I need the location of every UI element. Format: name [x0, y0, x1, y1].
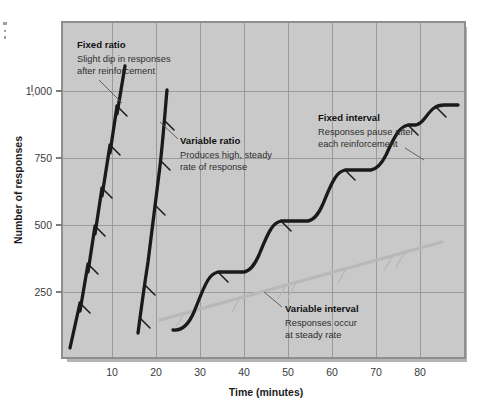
x-tick-label-70: 70	[370, 366, 382, 378]
annotation-variable-ratio-title: Variable ratio	[180, 135, 240, 146]
annotation-fixed-interval-title: Fixed interval	[318, 112, 380, 123]
x-tick-label-50: 50	[282, 366, 294, 378]
x-tick-label-20: 20	[150, 366, 162, 378]
chart-svg: 1,000 750 500 250 Number of responses 10…	[0, 0, 498, 410]
x-axis-title: Time (minutes)	[229, 386, 303, 398]
annotation-variable-interval-title: Variable interval	[285, 303, 359, 314]
annotation-fixed-ratio-title: Fixed ratio	[77, 39, 126, 50]
annotation-variable-ratio-line1: Produces high, steady	[180, 150, 272, 160]
annotation-variable-ratio-line2: rate of response	[180, 162, 247, 172]
x-tick-label-40: 40	[238, 366, 250, 378]
annotation-variable-interval-line1: Responses occur	[285, 318, 357, 328]
annotation-fixed-interval-line2: each reinforcement	[318, 139, 398, 149]
x-tick-label-10: 10	[106, 366, 118, 378]
y-tick-label-750: 750	[34, 152, 52, 164]
y-axis-title: Number of responses	[12, 136, 24, 244]
annotation-fixed-interval-line1: Responses pause after	[318, 127, 414, 137]
x-tick-label-60: 60	[326, 366, 338, 378]
annotation-fixed-ratio-line2: after reinforcement	[77, 66, 155, 76]
x-tick-label-30: 30	[194, 366, 206, 378]
y-tick-label-250: 250	[34, 286, 52, 298]
annotation-fixed-ratio-line1: Slight dip in responses	[77, 54, 171, 64]
y-tick-label-500: 500	[34, 219, 52, 231]
y-tick-label-1000: 1,000	[26, 85, 52, 97]
x-tick-label-80: 80	[414, 366, 426, 378]
annotation-variable-interval-line2: at steady rate	[285, 330, 341, 340]
schedules-of-reinforcement-chart: 1,000 750 500 250 Number of responses 10…	[0, 0, 498, 410]
